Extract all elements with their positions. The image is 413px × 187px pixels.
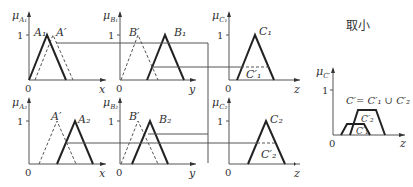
arrow-up-icon bbox=[227, 11, 231, 17]
arrow-right-icon bbox=[100, 162, 106, 166]
axis-label-mu-b2: μB₂ bbox=[103, 96, 118, 111]
arrow-up-icon bbox=[227, 97, 231, 103]
tick-label-zero: 0 bbox=[25, 83, 31, 94]
axis-label-mu-a2: μA₂ bbox=[12, 96, 27, 111]
tick-label-zero: 0 bbox=[25, 167, 31, 178]
input-set-a-prime bbox=[35, 35, 73, 80]
label-a2: A₂ bbox=[77, 113, 90, 126]
tick-label-zero: 0 bbox=[329, 138, 335, 149]
label-y: y bbox=[188, 167, 196, 180]
arrow-right-icon bbox=[294, 78, 300, 82]
arrow-right-icon bbox=[100, 78, 106, 82]
panel-result: μC′ 1 0 C′= C′₁ ∪ C′₂ C′₂ C′₁ z bbox=[316, 65, 410, 150]
tick-label-zero: 0 bbox=[225, 83, 231, 94]
label-b-prime: B′ bbox=[128, 26, 140, 39]
label-b2: B₂ bbox=[158, 113, 172, 126]
arrow-right-icon bbox=[190, 78, 196, 82]
tick-label-one: 1 bbox=[217, 30, 223, 41]
tick-label-zero: 0 bbox=[225, 167, 231, 178]
label-z: z bbox=[399, 137, 406, 150]
min-operation-label: 取小 bbox=[346, 19, 370, 33]
tick-label-zero: 0 bbox=[116, 83, 122, 94]
tick-label-one: 1 bbox=[108, 30, 114, 41]
tick-label-one: 1 bbox=[108, 116, 114, 127]
axis-label-mu-c2: μC₂ bbox=[212, 96, 228, 111]
label-z: z bbox=[293, 167, 300, 180]
label-x: x bbox=[99, 83, 106, 96]
label-c1: C₁ bbox=[259, 25, 272, 38]
arrow-up-icon bbox=[27, 97, 31, 103]
panel-b2: μB₂ 1 0 B′ B₂ y bbox=[103, 96, 196, 180]
label-a1: A₁ bbox=[33, 26, 46, 39]
tick-label-one: 1 bbox=[17, 30, 23, 41]
arrow-up-icon bbox=[27, 11, 31, 17]
label-x: x bbox=[99, 167, 106, 180]
arrow-up-icon bbox=[331, 67, 335, 73]
axis-label-mu-c-prime: μC′ bbox=[316, 65, 331, 80]
label-z: z bbox=[293, 83, 300, 96]
axis-label-mu-c1: μC₁ bbox=[212, 9, 228, 24]
label-y: y bbox=[188, 83, 196, 96]
label-c2-prime: C′₂ bbox=[261, 148, 276, 161]
tick-label-one: 1 bbox=[322, 85, 328, 96]
input-set-b-prime bbox=[121, 35, 158, 80]
label-c2-prime: C′₂ bbox=[361, 114, 374, 124]
fuzzy-inference-diagram: μA₁ 1 0 A₁ A′ x μB₁ 1 0 B′ B₁ y μC₁ 1 0 … bbox=[0, 0, 413, 187]
tick-label-one: 1 bbox=[17, 116, 23, 127]
panel-b1: μB₁ 1 0 B′ B₁ y bbox=[103, 9, 196, 96]
panel-c2: μC₂ 1 0 C₂ C′₂ z bbox=[212, 96, 300, 180]
panel-a2: μA₂ 1 0 A′ A₂ x bbox=[12, 96, 106, 180]
label-c1-prime: C′₁ bbox=[246, 68, 261, 81]
panel-c1: μC₁ 1 0 C₁ C′₁ z bbox=[212, 9, 300, 96]
union-formula: C′= C′₁ ∪ C′₂ bbox=[346, 95, 410, 106]
label-a-prime: A′ bbox=[55, 26, 67, 39]
label-b-prime: B′ bbox=[128, 110, 140, 123]
arrow-up-icon bbox=[118, 11, 122, 17]
tick-label-zero: 0 bbox=[116, 167, 122, 178]
set-b1 bbox=[147, 35, 184, 80]
axis-label-mu-b1: μB₁ bbox=[103, 9, 118, 24]
label-c1-prime: C′₁ bbox=[356, 126, 369, 136]
set-a1 bbox=[29, 35, 66, 80]
panel-a1: μA₁ 1 0 A₁ A′ x bbox=[12, 9, 106, 96]
arrow-right-icon bbox=[294, 162, 296, 166]
tick-label-one: 1 bbox=[217, 116, 223, 127]
arrow-right-icon bbox=[190, 162, 196, 166]
label-b1: B₁ bbox=[173, 26, 187, 39]
arrow-up-icon bbox=[118, 97, 122, 103]
label-c2: C₂ bbox=[270, 113, 283, 126]
axis-label-mu-a1: μA₁ bbox=[12, 9, 27, 24]
label-a-prime: A′ bbox=[50, 110, 62, 123]
